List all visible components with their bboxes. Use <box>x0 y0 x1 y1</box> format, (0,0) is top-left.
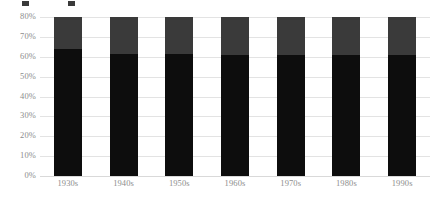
bar-1930s[interactable] <box>54 17 82 176</box>
chart-legend <box>0 0 430 9</box>
gridline <box>40 176 430 177</box>
x-axis-tick-label: 1960s <box>205 178 265 188</box>
y-axis-tick-label: 70% <box>2 32 36 41</box>
y-axis-tick-label: 30% <box>2 111 36 120</box>
legend-swatch-icon <box>68 1 75 6</box>
bar-segment <box>277 17 305 55</box>
y-axis-tick-label: 60% <box>2 52 36 61</box>
bar-segment <box>110 17 138 54</box>
bar-segment <box>54 49 82 176</box>
y-axis-tick-label: 40% <box>2 92 36 101</box>
bar-segment <box>277 55 305 176</box>
y-axis: 0%10%20%30%40%50%60%70%80% <box>0 17 36 176</box>
y-axis-tick-label: 20% <box>2 131 36 140</box>
bar-1960s[interactable] <box>221 17 249 176</box>
x-axis-tick-label: 1940s <box>94 178 154 188</box>
bar-segment <box>165 54 193 176</box>
bar-1950s[interactable] <box>165 17 193 176</box>
x-axis-tick-label: 1990s <box>372 178 430 188</box>
bar-segment <box>110 54 138 176</box>
x-axis-tick-label: 1930s <box>38 178 98 188</box>
bar-segment <box>388 55 416 176</box>
bar-segment <box>165 17 193 54</box>
x-axis-tick-label: 1950s <box>149 178 209 188</box>
bar-segment <box>221 17 249 55</box>
legend-item <box>68 0 78 9</box>
bar-segment <box>221 55 249 176</box>
bar-1990s[interactable] <box>388 17 416 176</box>
legend-item <box>22 0 32 9</box>
bar-segment <box>332 17 360 55</box>
legend-swatch-icon <box>22 1 29 6</box>
y-axis-tick-label: 0% <box>2 171 36 180</box>
bar-segment <box>388 17 416 55</box>
bar-1940s[interactable] <box>110 17 138 176</box>
bar-segment <box>332 55 360 176</box>
y-axis-tick-label: 80% <box>2 12 36 21</box>
bar-1970s[interactable] <box>277 17 305 176</box>
y-axis-tick-label: 10% <box>2 151 36 160</box>
x-axis-tick-label: 1980s <box>316 178 376 188</box>
stacked-bar-chart: 0%10%20%30%40%50%60%70%80% 1930s1940s195… <box>0 0 430 201</box>
bar-1980s[interactable] <box>332 17 360 176</box>
plot-area <box>40 17 430 176</box>
bar-segment <box>54 17 82 49</box>
y-axis-tick-label: 50% <box>2 72 36 81</box>
x-axis-tick-label: 1970s <box>261 178 321 188</box>
x-axis: 1930s1940s1950s1960s1970s1980s1990s <box>40 178 430 194</box>
